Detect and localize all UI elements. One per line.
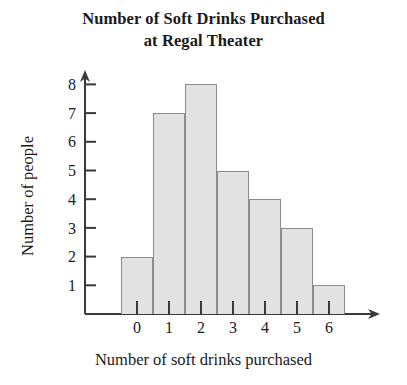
x-tick-mark-1 [168, 301, 170, 314]
x-tick-mark-2 [200, 301, 202, 314]
x-tick-mark-4 [264, 301, 266, 314]
x-tick-label-4: 4 [249, 318, 281, 338]
y-tick-label-7: 7 [56, 106, 76, 122]
y-axis-label-wrapper: Number of people [4, 0, 44, 385]
bar-category-4 [249, 199, 281, 314]
y-tick-label-2: 2 [56, 249, 76, 265]
y-tick-marks [85, 84, 96, 285]
y-tick-label-5: 5 [56, 163, 76, 179]
x-tick-mark-3 [232, 301, 234, 314]
x-tick-mark-0 [136, 301, 138, 314]
y-tick-label-1: 1 [56, 278, 76, 294]
x-tick-mark-5 [296, 301, 298, 314]
y-tick-label-6: 6 [56, 134, 76, 150]
bar-category-3 [217, 171, 249, 315]
x-tick-label-5: 5 [281, 318, 313, 338]
bar-category-1 [153, 113, 185, 314]
x-tick-label-3: 3 [217, 318, 249, 338]
y-tick-label-8: 8 [56, 77, 76, 93]
x-tick-label-6: 6 [313, 318, 345, 338]
x-tick-label-1: 1 [153, 318, 185, 338]
plot-area: 8 7 6 5 4 3 2 1 0 1 2 3 4 5 6 [0, 0, 407, 385]
y-tick-label-4: 4 [56, 192, 76, 208]
bar-category-2 [185, 84, 217, 314]
x-tick-label-0: 0 [121, 318, 153, 338]
y-tick-label-3: 3 [56, 221, 76, 237]
x-tick-label-2: 2 [185, 318, 217, 338]
y-axis-label: Number of people [18, 86, 38, 306]
x-axis-label: Number of soft drinks purchased [0, 350, 407, 370]
x-tick-mark-6 [328, 301, 330, 314]
histogram-figure: Number of Soft Drinks Purchased at Regal… [0, 0, 407, 385]
